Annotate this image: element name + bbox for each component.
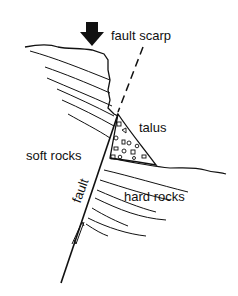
label-soft-rocks: soft rocks	[26, 149, 82, 162]
soft-rocks-strata	[30, 51, 114, 138]
down-arrow-icon	[80, 22, 104, 46]
upper-ground-surface	[25, 45, 118, 116]
label-hard-rocks: hard rocks	[124, 190, 185, 203]
label-fault-scarp: fault scarp	[111, 29, 171, 42]
fault-scarp-line	[118, 47, 143, 112]
label-talus: talus	[139, 121, 166, 134]
